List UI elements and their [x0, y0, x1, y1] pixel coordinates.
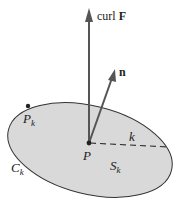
curl-surface-diagram: curl F n Pk P k Ck Sk	[0, 0, 180, 201]
radius-k-label: k	[129, 129, 135, 144]
point-pk-dot	[26, 104, 30, 108]
point-p-label: P	[82, 148, 91, 163]
normal-vector-arrowhead-icon	[108, 69, 116, 82]
normal-n-label: n	[119, 65, 126, 79]
curl-f-label: curl F	[97, 9, 126, 23]
point-p-dot	[87, 141, 92, 146]
curl-vector-arrowhead-icon	[85, 8, 93, 22]
